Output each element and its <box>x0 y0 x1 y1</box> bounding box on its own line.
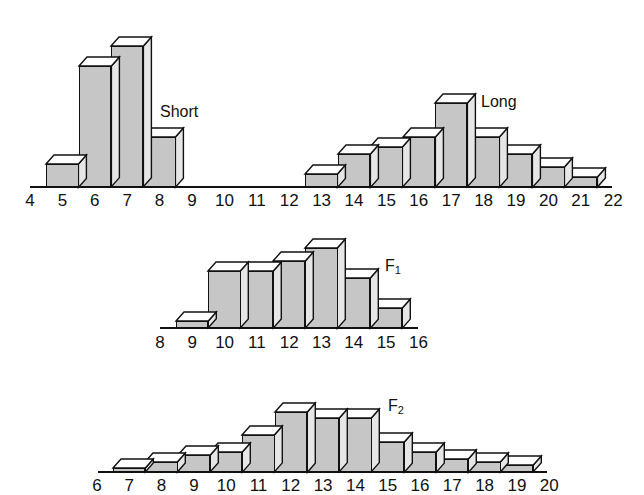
x-tick-label: 13 <box>314 477 333 494</box>
label-f2: F2 <box>388 398 404 416</box>
label-long-text: Long <box>481 93 517 110</box>
x-tick-label: 18 <box>474 192 493 209</box>
x-tick-label: 11 <box>248 192 266 209</box>
histogram-bar <box>176 321 208 328</box>
label-f2-main: F <box>388 397 398 414</box>
x-tick-label: 12 <box>281 477 300 494</box>
x-tick-label: 10 <box>217 477 236 494</box>
x-tick-label: 9 <box>188 334 197 351</box>
x-tick-label: 9 <box>187 192 196 209</box>
histogram-figure: Short Long F1 F2 45678910111213141516171… <box>0 0 644 495</box>
x-tick-label: 4 <box>25 192 34 209</box>
x-tick-label: 20 <box>540 477 559 494</box>
label-f1-main: F <box>385 257 395 274</box>
label-f1-sub: 1 <box>395 264 401 276</box>
x-tick-label: 22 <box>604 192 623 209</box>
x-tick-label: 15 <box>378 477 397 494</box>
x-tick-label: 8 <box>155 334 164 351</box>
x-tick-label: 10 <box>215 334 234 351</box>
x-tick-label: 20 <box>539 192 558 209</box>
x-tick-label: 11 <box>250 477 268 494</box>
x-tick-label: 5 <box>58 192 67 209</box>
label-f1: F1 <box>385 258 401 276</box>
histogram-bar <box>113 468 145 472</box>
bar-front-face <box>305 174 337 187</box>
bar-front-face <box>113 468 145 472</box>
x-tick-label: 13 <box>312 334 331 351</box>
x-tick-label: 18 <box>475 477 494 494</box>
x-tick-label: 6 <box>90 192 99 209</box>
histogram-bar <box>46 164 78 187</box>
x-tick-label: 19 <box>507 477 526 494</box>
x-tick-label: 15 <box>377 192 396 209</box>
x-tick-label: 16 <box>411 477 430 494</box>
x-tick-label: 8 <box>155 192 164 209</box>
x-tick-label: 12 <box>280 334 299 351</box>
x-tick-label: 21 <box>571 192 590 209</box>
x-tick-label: 14 <box>346 477 365 494</box>
x-tick-label: 16 <box>409 334 428 351</box>
x-tick-label: 15 <box>377 334 396 351</box>
x-tick-label: 13 <box>312 192 331 209</box>
x-tick-label: 8 <box>157 477 166 494</box>
x-tick-label: 7 <box>122 192 131 209</box>
bar-front-face <box>176 321 208 328</box>
x-tick-label: 16 <box>409 192 428 209</box>
label-short-text: Short <box>160 103 198 120</box>
x-tick-label: 12 <box>280 192 299 209</box>
x-tick-label: 9 <box>189 477 198 494</box>
x-tick-label: 17 <box>442 192 461 209</box>
histogram-bar <box>305 174 337 187</box>
label-f2-sub: 2 <box>398 404 404 416</box>
x-tick-label: 7 <box>125 477 134 494</box>
x-tick-label: 6 <box>92 477 101 494</box>
label-long: Long <box>481 94 517 110</box>
x-tick-label: 11 <box>248 334 266 351</box>
bar-front-face <box>46 164 78 187</box>
x-tick-label: 10 <box>215 192 234 209</box>
x-tick-label: 17 <box>443 477 462 494</box>
x-tick-label: 19 <box>507 192 526 209</box>
x-tick-label: 14 <box>345 192 364 209</box>
label-short: Short <box>160 104 198 120</box>
x-tick-label: 14 <box>344 334 363 351</box>
